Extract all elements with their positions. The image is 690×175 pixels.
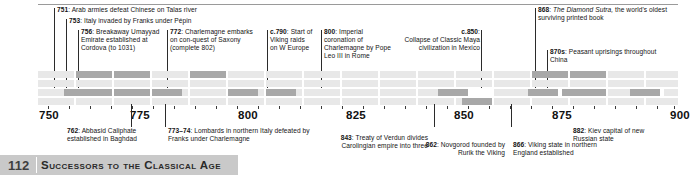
band-cell [570,80,606,87]
axis-tick [594,106,595,109]
event-label-753: 753: Italy invaded by Franks under Pépin [69,17,349,25]
event-text-862: Novgorod founded by Rurik the Viking [441,141,505,156]
axis-year-label-875: 875 [552,109,572,121]
band-cell [532,80,568,87]
band-cell [342,80,378,87]
event-year-751: 751 [57,6,68,13]
timeline-band [38,71,678,104]
event-year-870s: 870s [550,48,565,55]
band-cell [456,80,492,87]
band-row-3 [38,89,678,96]
band-cell [114,80,150,87]
band-cell-highlight [532,71,568,78]
band-cell [418,71,454,78]
band-cell [190,80,226,87]
band-cell [304,71,340,78]
band-cell [266,80,302,87]
axis-tick [90,106,91,109]
band-cell-highlight [266,89,296,96]
band-cell-highlight [562,89,606,96]
band-cell [646,71,678,78]
band-cell [228,71,264,78]
event-year-756: 756 [81,28,92,35]
event-label-756: 756: Breakaway Umayyad Emirate establish… [81,28,166,52]
band-cell [152,71,188,78]
event-label-870s: 870s: Peasant uprisings throughout China [550,48,675,64]
event-label-843: 843: Treaty of Verdun divides Carolingia… [310,134,428,150]
band-cell [664,89,678,96]
band-cell-highlight [114,89,150,96]
event-label-882: 882: Kiev capital of new Russian state [573,127,666,143]
axis-tick [447,106,448,109]
band-cell [304,89,340,96]
axis-tick [636,106,637,109]
leader-line-773-74 [165,104,166,127]
band-cell-highlight [630,89,660,96]
band-cell-highlight [438,89,468,96]
event-year-772: 772 [170,28,181,35]
band-cell [342,71,378,78]
band-cell [494,89,530,96]
band-cell [190,89,226,96]
event-text-c850: Collapse of Classic Maya civilization in… [404,36,480,51]
axis-year-label-850: 850 [454,109,474,121]
band-cell [646,80,678,87]
axis-year-label-775: 775 [130,109,150,121]
event-label-862: 862: Novgorod founded by Rurik the Vikin… [420,141,505,157]
event-label-868: 868: The Diamond Sutra, the world's olde… [538,6,678,22]
band-cell [608,71,644,78]
axis-year-label-900: 900 [670,109,690,121]
band-row-1 [38,71,678,78]
timeline-axis: 750 775 800 825 850 875 900 [38,104,678,120]
band-cell [38,80,74,87]
band-cell-highlight [228,89,258,96]
axis-tick [216,106,217,109]
axis-tick [531,106,532,109]
event-label-751: 751: Arab armies defeat Chinese on Talas… [57,6,347,14]
band-cell [380,89,416,96]
band-cell-highlight [64,89,112,96]
event-label-762: 762: Abbasid Caliphate established in Ba… [67,127,162,143]
band-cell [380,71,416,78]
axis-tick [426,106,427,109]
axis-tick [258,106,259,109]
axis-tick [615,106,616,109]
band-cell [76,80,112,87]
axis-year-label-825: 825 [346,109,366,121]
event-text-751: Arab armies defeat Chinese on Talas rive… [72,6,197,13]
band-cell [494,80,530,87]
band-cell [380,80,416,87]
band-cell-highlight [528,89,558,96]
band-cell [152,80,188,87]
axis-tick [573,106,574,109]
axis-tick [405,106,406,109]
top-divider-rule [38,4,678,5]
axis-tick [489,106,490,109]
axis-tick [657,106,658,109]
event-text-868-title: The Diamond Sutra, [553,6,613,13]
axis-tick [342,106,343,109]
event-year-753: 753 [69,17,80,24]
footer-inner: 112 Successors to the Classical Age [0,155,240,175]
band-cell-highlight [152,89,182,96]
event-label-772: 772: Charlemagne embarks on con-quest of… [170,28,255,52]
axis-tick [279,106,280,109]
event-year-866: 866 [513,141,524,148]
band-cell [228,80,264,87]
chapter-title: Successors to the Classical Age [41,159,221,171]
event-text-753: Italy invaded by Franks under Pépin [84,17,192,24]
axis-tick [111,106,112,109]
page-number: 112 [8,158,29,173]
band-cell [266,71,302,78]
band-cell [342,89,378,96]
footer-divider [36,157,37,173]
event-year-c790: c.790 [270,28,287,35]
event-label-c850: c.850: Collapse of Classic Maya civiliza… [398,28,480,52]
band-cell [456,71,492,78]
event-label-866: 866: Viking state in northern England es… [513,141,601,157]
band-cell [418,80,454,87]
band-cell [608,80,644,87]
event-year-800: 800 [324,28,335,35]
footer-right-edge [238,155,240,175]
